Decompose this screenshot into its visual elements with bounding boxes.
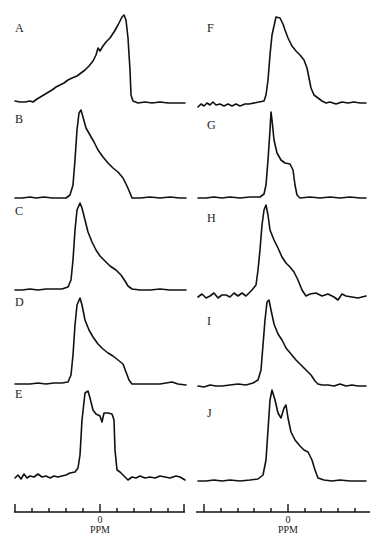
spectrum-J: [198, 390, 366, 481]
spectrum-E: [15, 391, 185, 480]
spectrum-A: [15, 15, 185, 103]
panel-label-f: F: [207, 22, 214, 34]
panel-label-a: A: [15, 22, 24, 34]
spectrum-D: [15, 298, 186, 385]
spectrum-I: [198, 300, 366, 387]
panel-label-d: D: [15, 296, 24, 308]
nmr-spectra-figure: [0, 0, 384, 536]
spectrum-B: [15, 110, 186, 198]
x-axis-right: [196, 504, 370, 512]
panel-label-e: E: [15, 388, 22, 400]
panel-label-c: C: [15, 205, 23, 217]
x-axis-left: [14, 504, 185, 512]
panel-label-j: J: [207, 407, 212, 419]
spectrum-G: [198, 112, 366, 198]
panel-label-i: I: [207, 315, 211, 327]
spectrum-F: [198, 17, 366, 107]
axis-left-unit-label: PPM: [80, 525, 120, 535]
spectrum-C: [15, 203, 186, 290]
panel-label-g: G: [207, 119, 216, 131]
axis-right-unit-label: PPM: [268, 525, 308, 535]
spectrum-H: [198, 205, 366, 300]
panel-label-h: H: [207, 212, 216, 224]
panel-label-b: B: [15, 113, 23, 125]
